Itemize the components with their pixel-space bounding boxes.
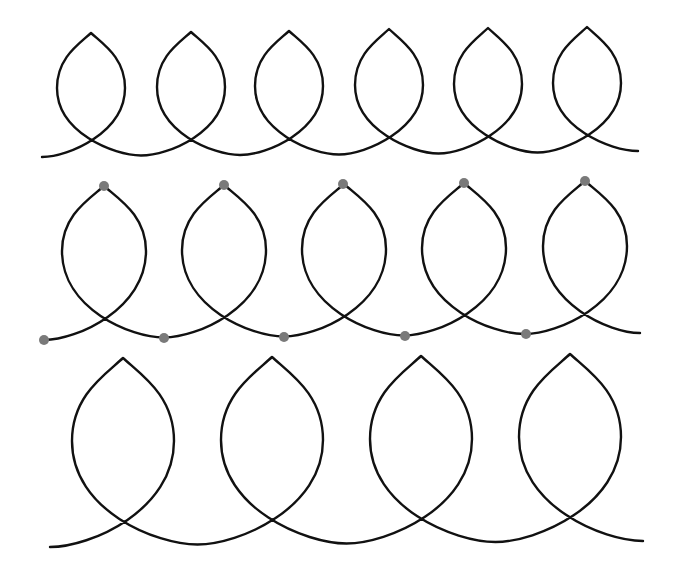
marker-dot xyxy=(338,179,348,189)
marker-dot xyxy=(521,329,531,339)
row-1-curve-group xyxy=(42,27,638,157)
looped-curves-diagram xyxy=(0,0,673,579)
row-3-curve-group xyxy=(50,354,643,547)
marker-dot xyxy=(459,178,469,188)
marker-dot xyxy=(400,331,410,341)
marker-dot xyxy=(99,181,109,191)
marker-dot xyxy=(279,332,289,342)
row-2-curve-group xyxy=(39,176,640,345)
looped-curve-row-3 xyxy=(50,354,643,547)
marker-dot xyxy=(219,180,229,190)
marker-dot xyxy=(580,176,590,186)
marker-dot xyxy=(39,335,49,345)
looped-curve-row-2 xyxy=(44,181,640,340)
looped-curve-row-1 xyxy=(42,27,638,157)
marker-dot xyxy=(159,333,169,343)
